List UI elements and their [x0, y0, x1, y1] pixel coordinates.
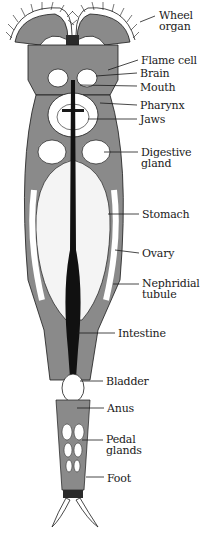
- label-nephridial-tubule: Nephridial tubule: [142, 278, 200, 300]
- label-ovary: Ovary: [142, 248, 174, 259]
- label-flame-cell: Flame cell: [141, 55, 197, 66]
- label-pharynx: Pharynx: [140, 100, 184, 111]
- label-intestine: Intestine: [118, 328, 166, 339]
- label-stomach: Stomach: [142, 209, 189, 220]
- label-jaws: Jaws: [140, 114, 165, 125]
- rotifer-illustration: [0, 0, 207, 533]
- label-brain: Brain: [140, 68, 170, 79]
- label-foot: Foot: [107, 473, 131, 484]
- label-digestive-gland: Digestive gland: [141, 147, 191, 169]
- label-pedal-glands: Pedal glands: [106, 434, 142, 456]
- label-mouth: Mouth: [140, 82, 175, 93]
- label-anus: Anus: [107, 403, 134, 414]
- label-bladder: Bladder: [106, 376, 149, 387]
- label-wheel-organ: Wheel organ: [159, 10, 193, 32]
- rotifer-diagram: Wheel organ Flame cell Brain Mouth Phary…: [0, 0, 207, 533]
